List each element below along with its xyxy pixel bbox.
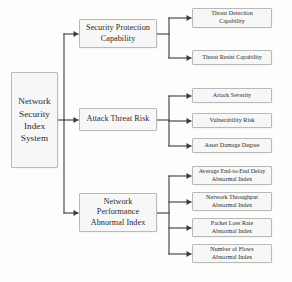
branch-node-security-protection-capability: Security Protection Capability [79,19,157,48]
root-node-network-security-index-system: Network Security Index System [11,72,58,168]
root-node-network-security-index-system-label: Network Security Index System [12,95,57,145]
arrow-into-asset-damage-degree [187,143,192,149]
leaf-node-network-throughput-abnormal-index: Network Throughput Abnormal Index [192,192,272,211]
arrow-into-attack-threat-risk [74,117,79,123]
leaf-node-threat-detection-capability-label: Threat Detection Capability [193,10,271,25]
leaf-node-vulnerability-risk-label: Vulnerability Risk [193,117,271,125]
leaf-node-attack-severity-label: Attack Severity [193,92,271,100]
leaf-node-threat-resist-capability-label: Threat Resist Capability [193,54,271,62]
arrow-into-threat-resist-capability [187,55,192,61]
arrow-into-threat-detection-capability [187,15,192,21]
leaf-node-packet-loss-rate-abnormal-index: Packet Loss Rate Abnormal Index [192,218,272,237]
leaf-node-asset-damage-degree-label: Asset Damage Degree [193,142,271,150]
leaf-node-threat-detection-capability: Threat Detection Capability [192,8,272,28]
network-security-index-system-diagram: Network Security Index SystemSecurity Pr… [0,0,292,282]
arrow-into-number-of-flows-abnormal-index [187,251,192,257]
arrow-into-vulnerability-risk [187,118,192,124]
branch-node-network-performance-abnormal-index: Network Performance Abnormal Index [79,193,157,232]
leaf-node-average-end-to-end-delay-abnormal-index-label: Average End-to-End Delay Abnormal Index [193,168,271,183]
arrow-into-network-throughput-abnormal-index [187,199,192,205]
leaf-node-vulnerability-risk: Vulnerability Risk [192,113,272,128]
arrow-into-security-protection-capability [74,31,79,37]
leaf-node-network-throughput-abnormal-index-label: Network Throughput Abnormal Index [193,194,271,209]
leaf-node-threat-resist-capability: Threat Resist Capability [192,50,272,65]
leaf-node-average-end-to-end-delay-abnormal-index: Average End-to-End Delay Abnormal Index [192,166,272,185]
arrow-into-packet-loss-rate-abnormal-index [187,225,192,231]
branch-node-network-performance-abnormal-index-label: Network Performance Abnormal Index [80,197,156,228]
leaf-node-packet-loss-rate-abnormal-index-label: Packet Loss Rate Abnormal Index [193,220,271,235]
leaf-node-number-of-flows-abnormal-index: Number of Flows Abnormal Index [192,244,272,263]
arrow-into-network-performance-abnormal-index [74,210,79,216]
branch-node-attack-threat-risk-label: Attack Threat Risk [80,114,156,124]
branch-node-attack-threat-risk: Attack Threat Risk [79,108,157,131]
leaf-node-attack-severity: Attack Severity [192,88,272,103]
arrow-into-average-end-to-end-delay-abnormal-index [187,173,192,179]
branch-node-security-protection-capability-label: Security Protection Capability [80,23,156,43]
arrow-into-attack-severity [187,93,192,99]
leaf-node-number-of-flows-abnormal-index-label: Number of Flows Abnormal Index [193,246,271,261]
leaf-node-asset-damage-degree: Asset Damage Degree [192,138,272,153]
